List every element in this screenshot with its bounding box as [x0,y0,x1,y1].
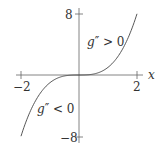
annotation-condition: ″ > 0 [95,35,125,49]
annotation-concave-down: g″ < 0 [37,102,75,116]
annotation-condition: ″ < 0 [45,102,75,116]
x-tick-label-neg2: −2 [13,80,31,94]
x-tick-label-pos2: 2 [133,80,141,94]
y-tick-label-neg8: −8 [60,131,78,145]
annotation-concave-up: g″ > 0 [87,35,125,49]
cubic-function-chart: −2 2 8 −8 x g″ > 0 g″ < 0 [0,0,167,151]
x-axis-label: x [148,68,155,82]
y-tick-label-pos8: 8 [65,8,73,22]
